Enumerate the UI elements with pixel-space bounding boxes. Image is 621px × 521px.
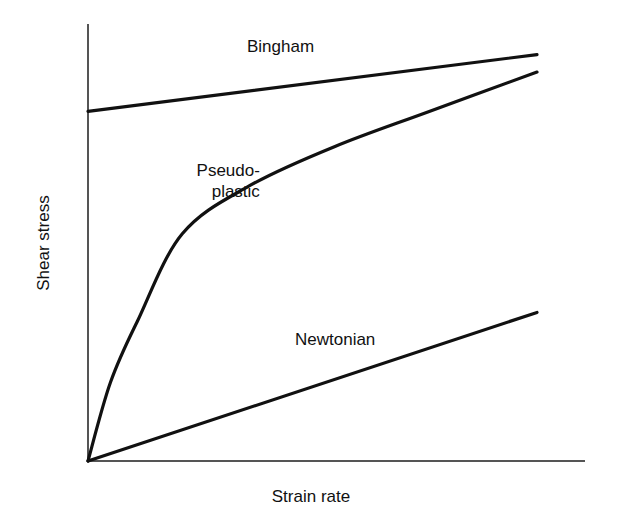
series-curve-pseudoplastic (88, 72, 537, 461)
y-axis-title: Shear stress (34, 173, 54, 313)
rheology-chart-figure: Bingham Pseudo-plastic Newtonian Shear s… (0, 0, 621, 521)
series-label-newtonian: Newtonian (295, 329, 375, 350)
series-label-bingham: Bingham (247, 36, 314, 57)
plot-canvas (0, 0, 621, 521)
series-label-pseudoplastic-line1: Pseudo- (197, 161, 260, 180)
series-label-pseudoplastic-line2: plastic (212, 182, 260, 201)
series-label-pseudoplastic: Pseudo-plastic (138, 160, 260, 202)
series-line-bingham (88, 55, 537, 112)
x-axis-title: Strain rate (221, 487, 401, 507)
